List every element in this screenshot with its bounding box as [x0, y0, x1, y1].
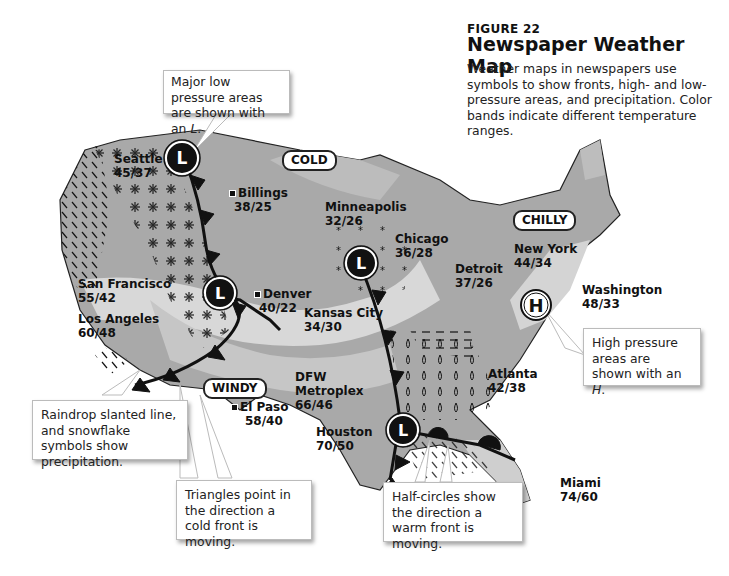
low-pressure-kansas: L — [344, 246, 378, 280]
city-san-francisco: San Francisco55/42 — [78, 277, 171, 305]
callout-precipitation: Raindrop slanted line, and snowflake sym… — [32, 400, 188, 460]
svg-text:L: L — [398, 421, 408, 440]
city-washington: Washington48/33 — [582, 283, 662, 311]
region-label-chilly: CHILLY — [513, 210, 576, 231]
svg-text:L: L — [356, 254, 366, 273]
city-seattle: Seattle45/37 — [114, 152, 163, 180]
high-pressure-east: H — [521, 290, 551, 320]
city-los-angeles: Los Angeles60/48 — [78, 312, 159, 340]
svg-text:L: L — [177, 148, 188, 168]
low-pressure-denver: L — [203, 276, 237, 310]
city-miami: Miami74/60 — [560, 476, 601, 504]
city-chicago: Chicago36/28 — [395, 232, 449, 260]
city-el-paso: El Paso58/40 — [231, 400, 288, 428]
city-new-york: New York44/34 — [514, 242, 577, 270]
city-marker — [254, 291, 261, 298]
city-atlanta: Atlanta42/38 — [488, 367, 538, 395]
city-minneapolis: Minneapolis32/26 — [325, 200, 407, 228]
city-denver: Denver40/22 — [254, 287, 312, 315]
city-marker — [231, 404, 238, 411]
city-houston: Houston70/50 — [316, 425, 373, 453]
svg-text:H: H — [528, 295, 543, 316]
svg-text:L: L — [215, 284, 225, 303]
city-dfw: DFWMetroplex66/46 — [295, 370, 364, 412]
low-pressure-gulf: L — [386, 413, 420, 447]
region-label-cold: COLD — [282, 150, 337, 171]
low-pressure-seattle: L — [164, 140, 200, 176]
city-billings: Billings38/25 — [229, 186, 288, 214]
region-label-windy: WINDY — [203, 378, 267, 399]
city-marker — [229, 190, 236, 197]
city-kansas-city: Kansas City34/30 — [304, 306, 383, 334]
city-detroit: Detroit37/26 — [455, 262, 503, 290]
callout-high-pressure: High pressure areas are shown with an H. — [583, 328, 701, 386]
callout-cold-front: Triangles point in the direction a cold … — [176, 480, 312, 540]
callout-warm-front: Half-circles show the direction a warm f… — [383, 482, 523, 542]
callout-low-pressure: Major low pressure areas are shown with … — [163, 70, 290, 114]
